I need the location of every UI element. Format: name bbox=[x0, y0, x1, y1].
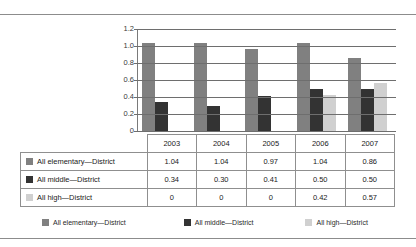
table-value-cell: 0 bbox=[246, 189, 296, 207]
table-value-cell: 0.50 bbox=[296, 171, 346, 189]
y-axis-tick bbox=[134, 97, 138, 98]
table-row-label: All high—District bbox=[21, 189, 148, 207]
axis-baseline bbox=[138, 131, 396, 132]
chart-legend: All elementary—DistrictAll middle—Distri… bbox=[20, 216, 396, 228]
y-axis-tick bbox=[134, 63, 138, 64]
chart-figure: 00.20.40.60.81.01.2 20032004200520062007… bbox=[0, 0, 416, 247]
table-value-cell: 0.34 bbox=[147, 171, 197, 189]
bar bbox=[155, 102, 168, 131]
series-name: All middle—District bbox=[37, 175, 100, 184]
top-divider bbox=[0, 14, 416, 15]
table-value-cell: 0 bbox=[147, 189, 197, 207]
gridline bbox=[138, 97, 396, 98]
table-row: All high—District0000.420.57 bbox=[21, 189, 395, 207]
bar bbox=[207, 106, 220, 132]
bar bbox=[348, 58, 361, 131]
table-row: All middle—District0.340.300.410.500.50 bbox=[21, 171, 395, 189]
legend-item[interactable]: All elementary—District bbox=[42, 216, 126, 228]
legend-swatch-icon bbox=[184, 219, 191, 226]
gridline bbox=[138, 63, 396, 64]
gridline bbox=[138, 114, 396, 115]
legend-swatch-icon bbox=[305, 219, 312, 226]
y-axis-tick bbox=[134, 29, 138, 30]
y-axis-tick-label: 0.8 bbox=[124, 59, 134, 67]
bar bbox=[297, 43, 310, 131]
table-value-cell: 0.41 bbox=[246, 171, 296, 189]
table-value-cell: 0.97 bbox=[246, 153, 296, 171]
bar bbox=[361, 89, 374, 132]
y-axis-tick bbox=[134, 46, 138, 47]
table-corner-cell bbox=[21, 135, 148, 153]
series-name: All elementary—District bbox=[37, 157, 115, 166]
table-column-header: 2003 bbox=[147, 135, 197, 153]
table-value-cell: 1.04 bbox=[296, 153, 346, 171]
table-value-cell: 1.04 bbox=[147, 153, 197, 171]
legend-label: All high—District bbox=[316, 219, 367, 226]
gridline bbox=[138, 29, 396, 30]
gridline bbox=[138, 80, 396, 81]
table-header-row: 20032004200520062007 bbox=[21, 135, 395, 153]
table-column-header: 2005 bbox=[246, 135, 296, 153]
data-table: 20032004200520062007All elementary—Distr… bbox=[20, 134, 395, 207]
plot-area bbox=[137, 29, 395, 131]
y-axis-labels: 00.20.40.60.81.01.2 bbox=[108, 22, 134, 132]
y-axis-tick bbox=[134, 114, 138, 115]
bar bbox=[310, 89, 323, 132]
series-swatch-icon bbox=[26, 176, 33, 183]
data-table-body: 20032004200520062007All elementary—Distr… bbox=[21, 135, 395, 207]
table-column-header: 2004 bbox=[197, 135, 247, 153]
table-value-cell: 0.50 bbox=[345, 171, 395, 189]
table-value-cell: 0 bbox=[197, 189, 247, 207]
table-row-label: All middle—District bbox=[21, 171, 148, 189]
table-row: All elementary—District1.041.040.971.040… bbox=[21, 153, 395, 171]
plot-region: 00.20.40.60.81.01.2 bbox=[0, 22, 416, 134]
gridline bbox=[138, 46, 396, 47]
table-value-cell: 0.42 bbox=[296, 189, 346, 207]
table-value-cell: 0.30 bbox=[197, 171, 247, 189]
series-name: All high—District bbox=[37, 193, 92, 202]
bar bbox=[374, 83, 387, 131]
y-axis-tick bbox=[134, 80, 138, 81]
bar bbox=[245, 49, 258, 131]
y-axis-tick bbox=[134, 131, 138, 132]
y-axis-tick-label: 1.2 bbox=[124, 25, 134, 33]
table-row-label: All elementary—District bbox=[21, 153, 148, 171]
bar bbox=[194, 43, 207, 131]
series-swatch-icon bbox=[26, 158, 33, 165]
y-axis-tick-label: 0.2 bbox=[124, 110, 134, 118]
y-axis-tick-label: 0.6 bbox=[124, 76, 134, 84]
series-swatch-icon bbox=[26, 194, 33, 201]
y-axis-tick-label: 0.4 bbox=[124, 93, 134, 101]
table-value-cell: 0.57 bbox=[345, 189, 395, 207]
bar bbox=[142, 43, 155, 131]
table-value-cell: 0.86 bbox=[345, 153, 395, 171]
legend-item[interactable]: All middle—District bbox=[184, 216, 254, 228]
table-column-header: 2006 bbox=[296, 135, 346, 153]
table-column-header: 2007 bbox=[345, 135, 395, 153]
legend-swatch-icon bbox=[42, 219, 49, 226]
legend-label: All elementary—District bbox=[53, 219, 126, 226]
y-axis-tick-label: 1.0 bbox=[124, 42, 134, 50]
table-value-cell: 1.04 bbox=[197, 153, 247, 171]
bottom-divider bbox=[0, 238, 416, 239]
legend-item[interactable]: All high—District bbox=[305, 216, 367, 228]
legend-label: All middle—District bbox=[195, 219, 254, 226]
